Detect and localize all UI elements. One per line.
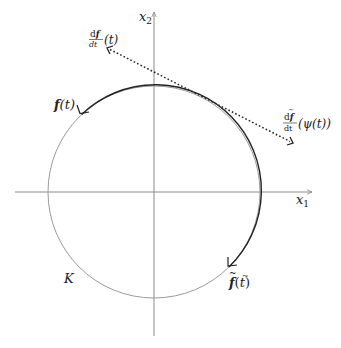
derivative-f-label: df dt (t) <box>89 29 119 49</box>
svg-text:(ψ(t)): (ψ(t)) <box>298 117 331 131</box>
svg-text:df: df <box>90 29 102 39</box>
svg-text:~: ~ <box>242 272 249 281</box>
derivative-f-tilde-label: ~ df dt (ψ(t)) <box>283 106 331 133</box>
f-tilde-label: ~ f(t) ~ <box>228 268 250 290</box>
f-t-label: f(t) <box>53 97 75 112</box>
svg-text:dt: dt <box>284 124 293 133</box>
x1-axis-label: x1 <box>296 192 309 209</box>
circle-k-label: K <box>63 271 75 286</box>
svg-text:df: df <box>284 112 296 122</box>
arc-end-arrowhead <box>228 257 237 266</box>
svg-text:dt: dt <box>89 40 98 49</box>
svg-text:(t): (t) <box>104 33 119 47</box>
x2-axis-label: x2 <box>139 9 152 26</box>
tangent-vector-line <box>110 50 290 142</box>
diagram-canvas: x1 x2 K f(t) ~ f(t) ~ df dt (t) ~ df dt … <box>0 0 341 348</box>
trajectory-arc <box>82 85 262 267</box>
